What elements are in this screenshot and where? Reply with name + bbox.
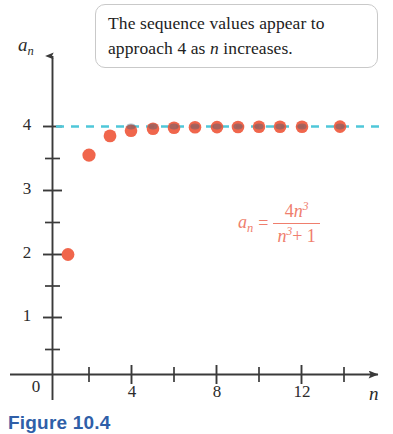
y-axis-label-subscript: n [28, 44, 34, 58]
data-point [82, 149, 95, 162]
formula-equals: = [258, 213, 268, 234]
data-point [62, 248, 75, 261]
formula-numerator-exponent: 3 [303, 200, 309, 212]
figure-caption: Figure 10.4 [8, 412, 111, 434]
formula-lhs-var: a [238, 212, 247, 232]
x-axis-label: n [369, 383, 379, 405]
x-tick-label-4: 4 [121, 382, 143, 402]
y-tick-label-3: 3 [16, 179, 38, 199]
y-tick-label-1: 1 [16, 306, 38, 326]
x-tick-label-8: 8 [206, 382, 228, 402]
y-axis-label: an [18, 34, 34, 59]
formula-annotation: an = 4n3 n3+ 1 [238, 200, 320, 247]
formula-denominator-plus: + 1 [292, 226, 316, 246]
formula-numerator-coef: 4 [285, 201, 294, 221]
y-axis-label-var: a [18, 34, 28, 55]
y-tick-label-4: 4 [16, 115, 38, 135]
formula-numerator-var: n [294, 201, 303, 221]
y-tick-label-2: 2 [16, 243, 38, 263]
x-tick-label-0: 0 [25, 377, 47, 397]
formula-numerator: 4n3 [281, 200, 313, 223]
formula-fraction: 4n3 n3+ 1 [273, 200, 319, 247]
formula-lhs-subscript: n [247, 221, 253, 235]
formula-lhs: an [238, 212, 253, 236]
x-tick-label-12: 12 [288, 382, 316, 402]
data-point [104, 130, 117, 143]
formula-denominator: n3+ 1 [273, 224, 319, 247]
